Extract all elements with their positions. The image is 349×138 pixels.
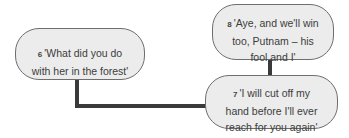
node-6-text: 'What did you do with her in the forest' (32, 47, 129, 77)
node-8: 8'Aye, and we'll win too, Putnam – his f… (212, 4, 334, 60)
node-8-content: 8'Aye, and we'll win too, Putnam – his f… (227, 0, 318, 65)
node-7-number: 7 (233, 90, 237, 99)
node-7-content: 7'I will cut off my hand before I'll eve… (226, 69, 318, 135)
node-7: 7'I will cut off my hand before I'll eve… (205, 75, 338, 129)
connector-6-to-7-horizontal (75, 104, 207, 108)
node-6-content: 6'What did you do with her in the forest… (32, 29, 129, 79)
node-6-number: 6 (38, 50, 42, 59)
node-6: 6'What did you do with her in the forest… (15, 28, 145, 80)
node-8-number: 8 (227, 20, 231, 29)
node-8-text: 'Aye, and we'll win too, Putnam – his fo… (232, 17, 319, 63)
node-7-text: 'I will cut off my hand before I'll ever… (226, 87, 318, 133)
